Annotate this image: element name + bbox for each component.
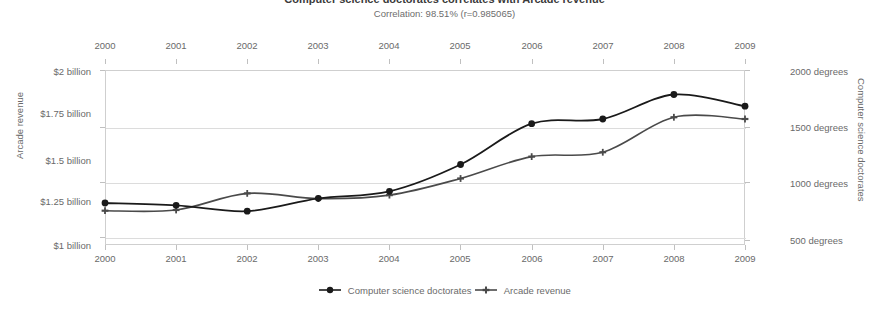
ytick-left-125b: $1.25 billion	[40, 196, 91, 207]
tick-bottom-8	[674, 245, 675, 250]
tick-right-2	[745, 182, 750, 183]
xtick-bottom-2004: 2004	[366, 253, 412, 264]
tick-top-1	[176, 59, 177, 64]
xtick-bottom-2007: 2007	[580, 253, 626, 264]
tick-top-5	[460, 59, 461, 64]
xtick-top-2006: 2006	[509, 40, 555, 51]
tick-bottom-5	[460, 245, 461, 250]
xtick-bottom-2009: 2009	[722, 253, 768, 264]
ytick-left-15b: $1.5 billion	[46, 155, 91, 166]
xtick-top-2007: 2007	[580, 40, 626, 51]
xtick-bottom-2000: 2000	[82, 253, 128, 264]
gridline-lower	[106, 238, 746, 239]
ytick-left-2b: $2 billion	[54, 66, 92, 77]
xtick-top-2002: 2002	[224, 40, 270, 51]
tick-top-7	[603, 59, 604, 64]
tick-left-1	[100, 127, 105, 128]
xtick-bottom-2001: 2001	[153, 253, 199, 264]
chart-subtitle: Correlation: 98.51% (r=0.985065)	[0, 8, 889, 19]
tick-right-1	[745, 127, 750, 128]
xtick-top-2005: 2005	[437, 40, 483, 51]
xtick-top-2000: 2000	[82, 40, 128, 51]
chart-legend: Computer science doctorates Arcade reven…	[0, 284, 889, 297]
tick-top-3	[318, 59, 319, 64]
tick-top-2	[247, 59, 248, 64]
gridline-mid	[106, 183, 746, 184]
tick-bottom-3	[318, 245, 319, 250]
tick-bottom-0	[105, 245, 106, 250]
y-axis-right-title: Computer science doctorates	[856, 78, 867, 202]
tick-top-8	[674, 59, 675, 64]
xtick-bottom-2005: 2005	[437, 253, 483, 264]
ytick-right-2000: 2000 degrees	[790, 66, 848, 77]
legend-item-doctorates[interactable]: Computer science doctorates	[318, 284, 471, 296]
ytick-left-175b: $1.75 billion	[40, 108, 91, 119]
tick-top-6	[532, 59, 533, 64]
legend-label-arcade: Arcade revenue	[504, 285, 571, 296]
tick-top-4	[389, 59, 390, 64]
xtick-top-2008: 2008	[651, 40, 697, 51]
xtick-top-2004: 2004	[366, 40, 412, 51]
circle-marker-icon	[318, 285, 342, 297]
xtick-top-2003: 2003	[295, 40, 341, 51]
chart-container: Computer science doctorates correlates w…	[0, 0, 889, 309]
xtick-bottom-2006: 2006	[509, 253, 555, 264]
tick-bottom-1	[176, 245, 177, 250]
tick-bottom-6	[532, 245, 533, 250]
tick-bottom-9	[745, 245, 746, 250]
plus-marker-icon	[474, 285, 498, 297]
legend-label-doctorates: Computer science doctorates	[348, 285, 472, 296]
gridline-upper	[106, 128, 746, 129]
tick-left-2	[100, 182, 105, 183]
tick-right-0	[745, 70, 750, 71]
tick-bottom-2	[247, 245, 248, 250]
tick-top-0	[105, 59, 106, 64]
tick-left-3	[100, 237, 105, 238]
legend-item-arcade[interactable]: Arcade revenue	[474, 284, 571, 296]
tick-bottom-4	[389, 245, 390, 250]
tick-right-3	[745, 240, 750, 241]
chart-title: Computer science doctorates correlates w…	[0, 0, 889, 5]
xtick-bottom-2003: 2003	[295, 253, 341, 264]
xtick-bottom-2002: 2002	[224, 253, 270, 264]
ytick-left-1b: $1 billion	[54, 240, 92, 251]
ytick-right-500: 500 degrees	[790, 235, 843, 246]
xtick-bottom-2008: 2008	[651, 253, 697, 264]
tick-left-0	[100, 70, 105, 71]
y-axis-left-title: Arcade revenue	[14, 92, 25, 159]
ytick-right-1500: 1500 degrees	[790, 122, 848, 133]
xtick-top-2001: 2001	[153, 40, 199, 51]
ytick-right-1000: 1000 degrees	[790, 178, 848, 189]
tick-bottom-7	[603, 245, 604, 250]
plot-area	[105, 70, 745, 245]
tick-top-9	[745, 59, 746, 64]
xtick-top-2009: 2009	[722, 40, 768, 51]
